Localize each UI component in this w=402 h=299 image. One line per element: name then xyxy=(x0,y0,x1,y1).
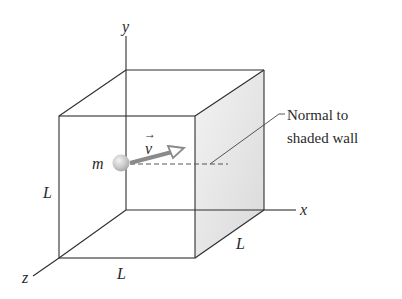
velocity-label: v xyxy=(145,140,153,157)
annotation-line-1: Normal to xyxy=(287,107,348,123)
depth-edge-length-label: L xyxy=(235,235,245,252)
z-axis-label: z xyxy=(21,269,29,286)
top-left-edge xyxy=(59,70,126,116)
left-edge-length-label: L xyxy=(42,184,52,201)
particle-ball-icon xyxy=(113,155,130,172)
vector-arrow-icon: → xyxy=(144,127,156,141)
back-left-depth-edge xyxy=(59,210,126,258)
velocity-arrow-icon xyxy=(130,146,184,163)
x-axis-label: x xyxy=(299,201,307,218)
box-diagram: y x z L L L m v → Normal to shaded wall xyxy=(0,0,402,299)
front-face xyxy=(59,116,195,258)
mass-label: m xyxy=(92,155,104,172)
y-axis-label: y xyxy=(120,18,130,36)
z-axis xyxy=(33,258,59,276)
annotation-line-2: shaded wall xyxy=(287,130,358,146)
bottom-edge-length-label: L xyxy=(116,265,126,282)
